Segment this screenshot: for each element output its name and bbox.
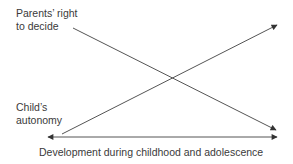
diagram-canvas — [0, 0, 293, 164]
parents-right-line — [73, 28, 276, 130]
child-autonomy-line — [62, 25, 277, 134]
